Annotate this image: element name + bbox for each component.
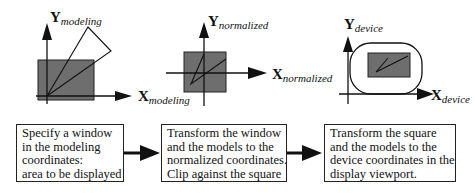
arrow-right-icon: [140, 145, 160, 161]
step-text: Transform the square: [330, 127, 450, 141]
arrow-right-icon: [302, 145, 322, 161]
step-text: and the models to the: [330, 141, 450, 155]
step-text: device coordinates in the: [330, 154, 450, 168]
x-axis-label-modeling: Xmodeling: [138, 88, 190, 106]
y-axis-label-normalized: Ynormalized: [208, 13, 268, 31]
modeling-panel: [36, 23, 132, 104]
x-axis-label-device: Xdevice: [431, 87, 470, 105]
step-text: coordinates:: [22, 154, 118, 168]
y-arrow-icon: [343, 36, 353, 52]
step-box-specify-window: Specify a window in the modeling coordin…: [16, 124, 124, 182]
step-text: Specify a window: [22, 127, 118, 141]
step-text: and the models to the: [167, 141, 281, 155]
y-axis-label-modeling: Ymodeling: [50, 9, 102, 27]
step-text: Clip against the square: [167, 168, 281, 182]
step-box-normalize: Transform the window and the models to t…: [161, 124, 287, 182]
x-arrow-icon: [248, 67, 267, 79]
x-axis-label-normalized: Xnormalized: [272, 66, 332, 84]
normalized-square: [184, 52, 226, 92]
step-text: area to be displayed: [22, 168, 118, 182]
step-text: normalized coordinates.: [167, 154, 281, 168]
step-text: in the modeling: [22, 141, 118, 155]
step-text: display viewport.: [330, 168, 450, 182]
y-axis-label-device: Ydevice: [344, 16, 383, 34]
step-text: Transform the window: [167, 127, 281, 141]
x-arrow-icon: [115, 91, 132, 101]
step-box-device: Transform the square and the models to t…: [324, 124, 456, 182]
device-panel: [339, 36, 434, 104]
